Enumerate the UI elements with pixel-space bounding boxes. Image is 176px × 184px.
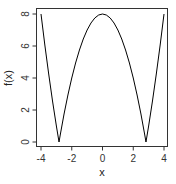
y-tick-label: 8 <box>20 11 31 17</box>
x-tick-label: -4 <box>37 153 46 164</box>
x-tick-label: 4 <box>161 153 167 164</box>
x-tick-label: 2 <box>130 153 136 164</box>
x-tick-label: 0 <box>100 153 106 164</box>
y-tick-label: 2 <box>20 107 31 113</box>
chart: -4-2024 02468 x f(x) <box>0 0 176 184</box>
y-tick-label: 0 <box>20 139 31 145</box>
x-tick-label: -2 <box>67 153 76 164</box>
y-axis: 02468 <box>20 11 37 145</box>
series-line <box>41 14 164 142</box>
y-tick-label: 4 <box>20 75 31 81</box>
x-axis-label: x <box>99 166 105 178</box>
y-axis-label: f(x) <box>2 70 14 86</box>
x-axis: -4-2024 <box>37 147 168 164</box>
y-tick-label: 6 <box>20 43 31 49</box>
